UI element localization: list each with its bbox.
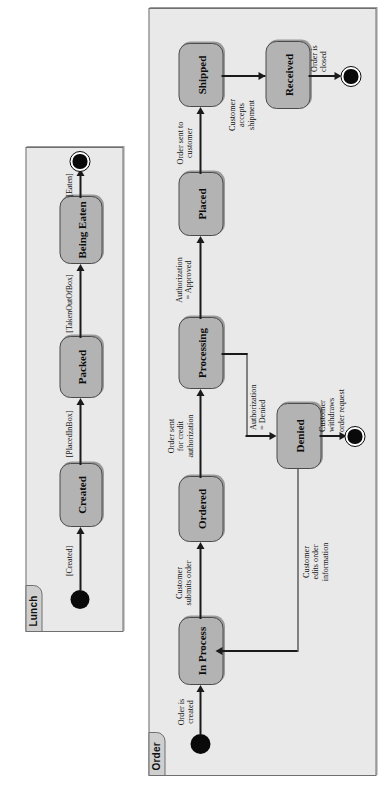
order-state-received[interactable]: Received — [265, 41, 310, 109]
order-transition-inprocess-ordered-line — [199, 547, 201, 619]
order-transition-processing-placed-label: Authorization = Approved — [174, 238, 193, 322]
order-transition-ordered-processing-arrowhead — [196, 389, 204, 396]
lunch-state-being-eaten-label: Being Eaten — [75, 201, 87, 258]
order-state-ordered[interactable]: Ordered — [178, 476, 223, 542]
lunch-panel-tab-label: Lunch — [25, 586, 42, 633]
order-transition-processing-placed-arrowhead — [196, 236, 204, 243]
order-state-shipped[interactable]: Shipped — [178, 43, 223, 107]
order-transition-received-end-line — [308, 75, 338, 77]
order-state-placed[interactable]: Placed — [178, 172, 223, 236]
order-state-shipped-label: Shipped — [195, 56, 207, 95]
lunch-state-packed-label: Packed — [75, 350, 87, 384]
order-state-ordered-label: Ordered — [195, 489, 207, 529]
order-transition-processing-denied-arrowhead — [269, 432, 276, 440]
order-state-received-label: Received — [282, 54, 294, 96]
order-transition-processing-denied-riser — [221, 353, 247, 355]
order-panel-tab-label: Order — [148, 732, 165, 776]
order-state-in-process-label: In Process — [195, 627, 207, 675]
lunch-transition-beingeaten-end-line — [79, 174, 81, 198]
order-transition-denied-inprocess-riser — [221, 650, 297, 652]
order-state-processing-label: Processing — [195, 328, 207, 378]
order-state-denied[interactable]: Denied — [276, 403, 321, 469]
lunch-state-packed[interactable]: Packed — [59, 336, 102, 398]
order-transition-processing-placed-line — [199, 241, 201, 319]
lunch-diagram-panel: Lunch [Created] Created [PlacedInBox] Pa… — [25, 147, 123, 632]
order-transition-ordered-processing-line — [199, 394, 201, 478]
order-transition-denied-inprocess-label: Customer edits order information — [301, 524, 329, 600]
order-final-node-received — [340, 66, 361, 87]
order-transition-start-inprocess-arrowhead — [196, 685, 204, 692]
order-transition-start-inprocess-line — [199, 690, 201, 734]
lunch-state-created[interactable]: Created — [59, 463, 102, 527]
order-diagram-panel: Order Order is created In Process Custom… — [148, 8, 376, 776]
lunch-state-created-label: Created — [75, 476, 87, 514]
order-state-placed-label: Placed — [195, 188, 207, 219]
order-transition-ordered-processing-label: Order sent for credit authorization — [166, 393, 194, 479]
order-transition-inprocess-ordered-arrowhead — [196, 542, 204, 549]
lunch-initial-node — [70, 590, 89, 609]
lunch-state-being-eaten[interactable]: Being Eaten — [59, 196, 102, 264]
lunch-transition-created-packed-line — [79, 403, 81, 465]
order-final-node-denied — [344, 426, 365, 447]
lunch-transition-start-created-arrowhead — [76, 527, 84, 534]
lunch-transition-packed-beingeaten-arrowhead — [76, 264, 84, 271]
order-initial-node — [190, 734, 210, 754]
lunch-transition-created-packed-label: [PlacedInBox] — [64, 402, 73, 466]
lunch-transition-beingeaten-end-label: [Eaten] — [64, 166, 73, 204]
lunch-transition-start-created-label: [Created] — [64, 535, 73, 587]
order-state-processing[interactable]: Processing — [178, 317, 223, 389]
order-transition-denied-end-label: Customer withdraws order request — [317, 356, 345, 432]
order-transition-placed-shipped-label: Order sent to customer — [175, 108, 194, 178]
order-transition-processing-denied-label: Authorization = Denied — [248, 346, 267, 430]
lunch-transition-start-created-line — [79, 532, 81, 590]
order-transition-placed-shipped-line — [199, 112, 201, 174]
diagram-stage: Lunch [Created] Created [PlacedInBox] Pa… — [0, 0, 391, 794]
order-transition-shipped-received-arrowhead — [258, 72, 265, 80]
order-transition-shipped-received-label: Customer accepts shipment — [227, 83, 255, 147]
lunch-transition-packed-beingeaten-label: [TakenOutOfBox] — [64, 267, 73, 340]
order-transition-placed-shipped-arrowhead — [196, 107, 204, 114]
lunch-transition-created-packed-arrowhead — [76, 398, 84, 405]
order-transition-start-inprocess-label: Order is created — [176, 688, 195, 736]
lunch-final-node — [69, 151, 90, 172]
order-state-denied-label: Denied — [293, 420, 305, 453]
order-transition-denied-inprocess-run — [297, 469, 299, 652]
order-transition-inprocess-ordered-label: Customer submits order — [174, 546, 193, 620]
order-transition-received-end-label: Order is closed — [309, 28, 328, 72]
order-transition-denied-inprocess-arrowhead — [215, 647, 222, 655]
lunch-transition-packed-beingeaten-line — [79, 269, 81, 338]
order-transition-processing-denied-run — [246, 353, 248, 437]
